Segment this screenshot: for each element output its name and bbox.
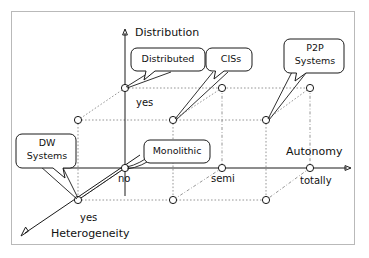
callout-ciss-label: CISs: [221, 53, 241, 64]
callout-p2p[interactable]: P2P Systems: [284, 39, 344, 81]
node-front-axis-semi: [218, 164, 225, 171]
callout-distributed[interactable]: Distributed: [131, 48, 205, 80]
diagram-canvas: Distributed CISs P2P Systems DW Systems …: [0, 0, 369, 258]
diagram-svg: Distributed CISs P2P Systems DW Systems …: [0, 0, 369, 258]
axis-label-heterogeneity: Heterogeneity: [51, 227, 130, 240]
callout-dw-label-2: Systems: [27, 150, 67, 161]
callout-distributed-label: Distributed: [142, 53, 195, 64]
node-low-back-mid: [169, 196, 176, 203]
axis-label-distribution: Distribution: [135, 26, 199, 39]
callout-monolithic[interactable]: Monolithic: [144, 140, 210, 163]
node-low-back-right: [262, 196, 269, 203]
callout-p2p-label-1: P2P: [306, 42, 324, 53]
tick-heterogeneity-yes: yes: [80, 212, 97, 223]
node-back-top-left: [74, 116, 81, 123]
node-front-axis-totally: [306, 164, 313, 171]
callout-dw-label-1: DW: [39, 137, 56, 148]
tick-distribution-yes: yes: [136, 97, 153, 108]
node-front-origin: [121, 164, 128, 171]
node-front-top-mid: [218, 84, 225, 91]
tick-autonomy-semi: semi: [211, 173, 235, 184]
callout-monolithic-label: Monolithic: [153, 145, 202, 156]
callout-p2p-label-2: Systems: [295, 55, 335, 66]
axis-label-autonomy: Autonomy: [286, 145, 343, 158]
tick-autonomy-totally: totally: [300, 175, 332, 186]
callout-ciss[interactable]: CISs: [206, 48, 252, 79]
node-mid-back-mid: [169, 116, 176, 123]
tick-autonomy-no: no: [118, 173, 130, 184]
node-front-top-right: [306, 84, 313, 91]
